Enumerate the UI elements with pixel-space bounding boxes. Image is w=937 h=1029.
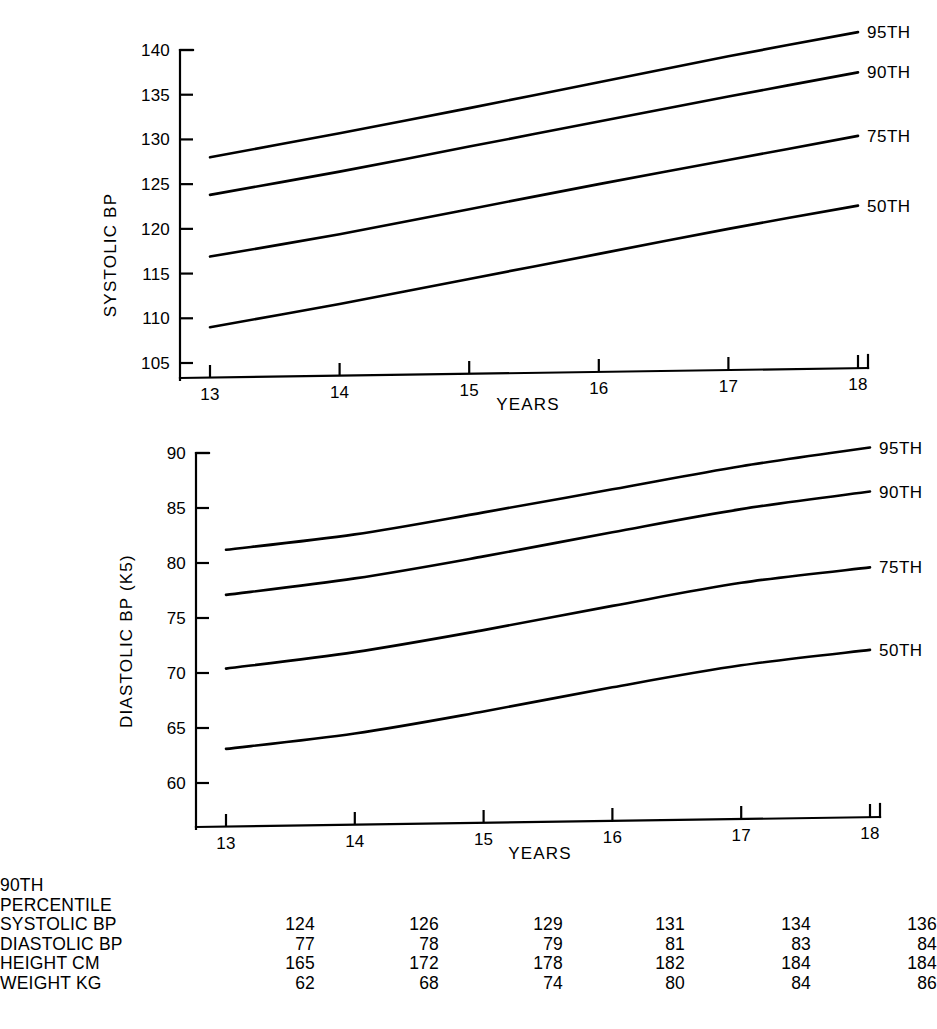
- diastolic-y-tick-marks: [196, 453, 209, 783]
- table-cell: 84: [811, 935, 937, 955]
- table-row: DIASTOLIC BP777879818384: [0, 935, 937, 955]
- table-cell: 129: [439, 915, 563, 935]
- table-cell: 78: [315, 935, 439, 955]
- systolic-y-tick-marks: [180, 50, 193, 363]
- table-cell: 81: [563, 935, 685, 955]
- table-heading-percentile: PERCENTILE: [0, 896, 190, 916]
- table-cell: 124: [190, 915, 315, 935]
- y-tick-label-90: 90: [167, 444, 186, 463]
- table-row-label: DIASTOLIC BP: [0, 935, 190, 955]
- table-cell: 74: [439, 974, 563, 994]
- y-tick-label-70: 70: [167, 664, 186, 683]
- table-cell: 136: [811, 915, 937, 935]
- x-tick-label-13: 13: [216, 834, 235, 853]
- y-tick-label-130: 130: [141, 130, 170, 149]
- table-cell: 79: [439, 935, 563, 955]
- table-row-label: WEIGHT KG: [0, 974, 190, 994]
- table-cell: 178: [439, 954, 563, 974]
- table-cell: 184: [685, 954, 811, 974]
- systolic-x-tick-marks: [210, 355, 858, 378]
- x-tick-label-13: 13: [200, 385, 219, 404]
- curve-50th: [210, 206, 858, 328]
- curve-75th: [210, 136, 858, 257]
- table-row: SYSTOLIC BP124126129131134136: [0, 915, 937, 935]
- table-row: HEIGHT CM165172178182184184: [0, 954, 937, 974]
- x-tick-label-18: 18: [860, 824, 879, 843]
- systolic-x-axis-title: YEARS: [496, 395, 560, 414]
- x-tick-label-15: 15: [474, 830, 493, 849]
- table: 90TH PERCENTILE SYSTOLIC: [0, 876, 937, 993]
- series-label-75th: 75TH: [879, 558, 923, 577]
- y-tick-label-135: 135: [141, 86, 170, 105]
- table-row-label: SYSTOLIC BP: [0, 915, 190, 935]
- table-cell: 184: [811, 954, 937, 974]
- y-tick-label-75: 75: [167, 609, 186, 628]
- diastolic-x-tick-marks: [226, 804, 870, 827]
- table-heading-row-2: PERCENTILE: [0, 896, 937, 916]
- diastolic-x-axis-line: [196, 817, 880, 827]
- x-tick-label-15: 15: [460, 381, 479, 400]
- table-cell: 84: [685, 974, 811, 994]
- series-label-50th: 50TH: [879, 641, 923, 660]
- x-tick-label-18: 18: [848, 375, 867, 394]
- series-label-75th: 75TH: [867, 127, 911, 146]
- table-cell: 77: [190, 935, 315, 955]
- chart-diastolic-bp: 60657075808590 131415161718 95TH90TH75TH…: [0, 425, 937, 876]
- y-tick-label-140: 140: [141, 41, 170, 60]
- x-tick-label-14: 14: [345, 832, 364, 851]
- curve-50th: [226, 650, 870, 749]
- curve-95th: [210, 32, 858, 157]
- table-row: WEIGHT KG626874808486: [0, 974, 937, 994]
- diastolic-x-axis-title: YEARS: [508, 844, 572, 863]
- x-tick-label-17: 17: [719, 377, 738, 396]
- series-label-95th: 95TH: [879, 439, 923, 458]
- diastolic-y-axis-title: DIASTOLIC BP (K5): [117, 554, 136, 728]
- percentile-data-table: 90TH PERCENTILE SYSTOLIC: [0, 876, 937, 993]
- y-tick-label-115: 115: [142, 265, 170, 284]
- systolic-x-axis-line: [180, 368, 868, 378]
- table-row-label: HEIGHT CM: [0, 954, 190, 974]
- systolic-series-end-labels: 95TH90TH75TH50TH: [867, 23, 911, 215]
- table-cell: 134: [685, 915, 811, 935]
- y-tick-label-105: 105: [141, 354, 170, 373]
- diastolic-series-end-labels: 95TH90TH75TH50TH: [879, 439, 923, 660]
- y-tick-label-120: 120: [141, 220, 170, 239]
- table-cell: 80: [563, 974, 685, 994]
- diastolic-percentile-curves: [226, 448, 870, 749]
- series-label-50th: 50TH: [867, 197, 911, 216]
- y-tick-label-65: 65: [167, 719, 186, 738]
- table-cell: 86: [811, 974, 937, 994]
- curve-90th: [210, 72, 858, 195]
- series-label-95th: 95TH: [867, 23, 911, 42]
- y-tick-label-125: 125: [141, 175, 170, 194]
- table-cell: 172: [315, 954, 439, 974]
- y-tick-label-110: 110: [142, 309, 170, 328]
- series-label-90th: 90TH: [867, 63, 911, 82]
- systolic-y-tick-labels: 105110115120125130135140: [141, 41, 170, 373]
- table-cell: 131: [563, 915, 685, 935]
- diastolic-y-tick-labels: 60657075808590: [167, 444, 186, 793]
- y-tick-label-60: 60: [167, 774, 186, 793]
- table-cell: 62: [190, 974, 315, 994]
- chart-systolic-bp: 105110115120125130135140 131415161718 95…: [0, 0, 937, 425]
- table-cell: 68: [315, 974, 439, 994]
- table-cell: 126: [315, 915, 439, 935]
- systolic-y-axis-title: SYSTOLIC BP: [101, 193, 120, 317]
- x-tick-label-17: 17: [732, 826, 751, 845]
- table-cell: 182: [563, 954, 685, 974]
- x-tick-label-16: 16: [589, 379, 608, 398]
- table-cell: 165: [190, 954, 315, 974]
- blood-pressure-percentile-figure: 105110115120125130135140 131415161718 95…: [0, 0, 937, 1029]
- y-tick-label-80: 80: [167, 554, 186, 573]
- curve-95th: [226, 448, 870, 550]
- table-heading-row-1: 90TH: [0, 876, 937, 896]
- systolic-percentile-curves: [210, 32, 858, 327]
- table-heading-90th: 90TH: [0, 876, 190, 896]
- series-label-90th: 90TH: [879, 483, 923, 502]
- x-tick-label-16: 16: [603, 828, 622, 847]
- table-cell: 83: [685, 935, 811, 955]
- y-tick-label-85: 85: [167, 499, 186, 518]
- x-tick-label-14: 14: [330, 383, 349, 402]
